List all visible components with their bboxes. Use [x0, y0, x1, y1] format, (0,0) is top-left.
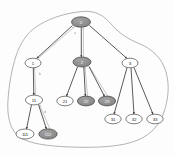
node-label: 22 — [84, 99, 89, 104]
node-11[interactable]: 11 — [25, 95, 42, 105]
enclosing-blob-outline — [8, 11, 168, 147]
node-31[interactable]: 31 — [105, 114, 121, 124]
node-32[interactable]: 32 — [126, 114, 142, 124]
node-label: 112 — [45, 132, 52, 137]
edge-mark: b — [39, 72, 41, 76]
edge-1-11 — [33, 68, 34, 95]
node-23[interactable]: 23 — [98, 96, 115, 106]
node-label: 11 — [32, 98, 37, 103]
node-112[interactable]: 112 — [39, 129, 57, 139]
node-label: 33 — [153, 117, 158, 122]
node-label: 23 — [105, 99, 110, 104]
node-3[interactable]: 3 — [122, 58, 138, 68]
node-2[interactable]: 2 — [73, 57, 91, 67]
node-label: 31 — [111, 117, 116, 122]
edge-mark: a — [74, 31, 76, 35]
node-111[interactable]: 111 — [16, 129, 34, 139]
node-label: 21 — [63, 99, 68, 104]
node-21[interactable]: 21 — [57, 96, 73, 106]
node-22[interactable]: 22 — [77, 96, 94, 106]
node-0[interactable]: 0 — [72, 17, 91, 27]
node-33[interactable]: 33 — [147, 114, 163, 124]
edge-mark: d — [44, 110, 46, 114]
tree-diagram: a b c d 0 1 2 3 — [0, 0, 174, 155]
node-label: 32 — [132, 117, 137, 122]
node-label: 111 — [22, 132, 29, 137]
node-1[interactable]: 1 — [25, 58, 41, 68]
figure-canvas: a b c d 0 1 2 3 — [0, 0, 174, 155]
